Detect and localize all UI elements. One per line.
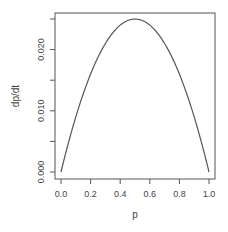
y-tick-label: 0.020	[36, 38, 46, 61]
y-axis: 0.0000.0100.020	[36, 19, 55, 183]
y-tick-label: 0.010	[36, 100, 46, 123]
y-tick-label: 0.000	[36, 161, 46, 184]
x-tick-label: 0.8	[173, 189, 186, 199]
plot-frame	[55, 13, 215, 179]
x-tick-label: 0.4	[114, 189, 127, 199]
x-tick-label: 0.6	[144, 189, 157, 199]
x-tick-label: 0.2	[84, 189, 97, 199]
chart: 0.0000.0100.020 0.00.20.40.60.81.0 p dp/…	[0, 0, 228, 232]
x-tick-label: 1.0	[203, 189, 216, 199]
x-tick-label: 0.0	[55, 189, 68, 199]
y-axis-label: dp/dt	[10, 85, 21, 107]
x-axis-label: p	[132, 209, 138, 220]
x-axis: 0.00.20.40.60.81.0	[55, 179, 216, 199]
data-curve	[61, 19, 209, 172]
